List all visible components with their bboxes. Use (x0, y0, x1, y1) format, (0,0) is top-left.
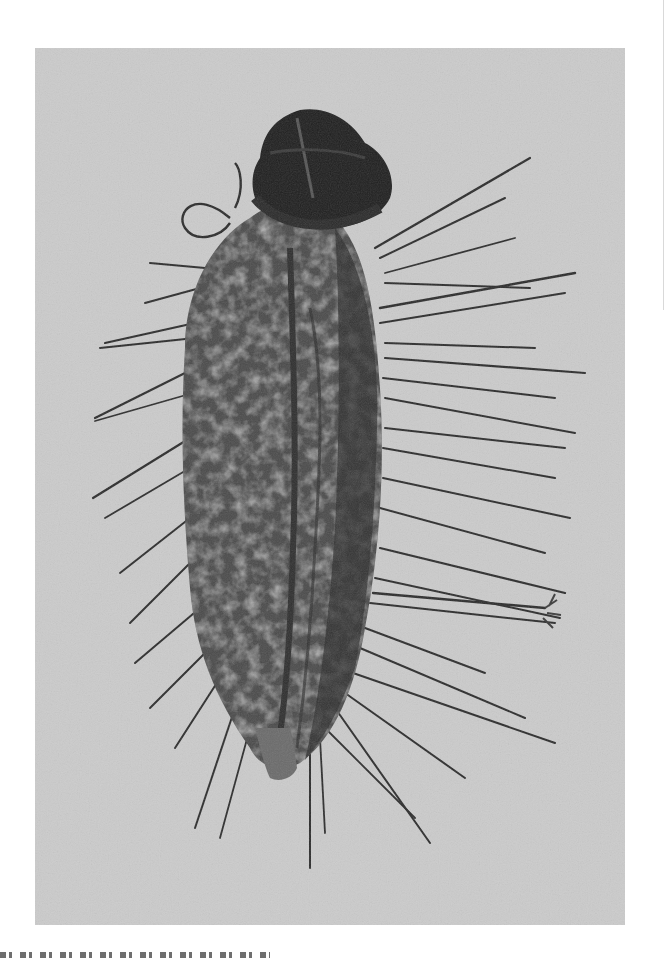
caterpillar-photo (35, 48, 625, 925)
caption-text-clipped (0, 952, 270, 958)
page-edge-line (663, 0, 664, 310)
caterpillar-illustration (35, 48, 625, 925)
figure-caption (0, 944, 300, 958)
